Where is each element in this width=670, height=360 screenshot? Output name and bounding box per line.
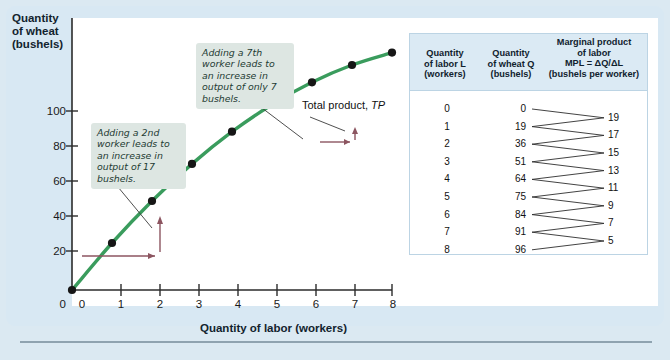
y-axis-title-line-2: of wheat [12, 25, 74, 38]
x-tick-label-2: 2 [152, 298, 168, 310]
cell-mpl-11: 11 [608, 182, 634, 193]
header-mpl-line-4: (bushels per worker) [542, 69, 646, 80]
mpl-connector [532, 171, 604, 180]
header-labor-line-3: (workers) [414, 69, 476, 80]
header-labor-line-1: Quantity [414, 48, 476, 59]
header-wheat-line-2: of wheat Q [480, 59, 542, 70]
y-axis-title: Quantity of wheat (bushels) [12, 12, 74, 51]
mpl-connector [532, 127, 604, 136]
cell-mpl-9: 9 [608, 200, 634, 211]
cell-labor-2: 2 [430, 138, 464, 149]
header-wheat-line-3: (bushels) [480, 69, 542, 80]
mpl-connector [532, 153, 604, 162]
x-tick-label-8: 8 [385, 298, 401, 310]
x-axis-title: Quantity of labor (workers) [200, 322, 347, 334]
cell-wheat-0: 0 [492, 103, 526, 114]
curve-label-text: Total product, [302, 99, 371, 111]
bottom-rule [20, 341, 652, 343]
x-tick-label-1: 1 [113, 298, 129, 310]
cell-mpl-19: 19 [608, 112, 634, 123]
cell-mpl-17: 17 [608, 129, 634, 140]
mpl-connector [532, 215, 604, 224]
x-tick-label-4: 4 [230, 298, 246, 310]
y-tick-label-80: 80 [34, 140, 66, 152]
cell-labor-4: 4 [430, 173, 464, 184]
x-tick-label-3: 3 [191, 298, 207, 310]
cell-wheat-2: 36 [492, 138, 526, 149]
cell-wheat-5: 75 [492, 191, 526, 202]
cell-wheat-4: 64 [492, 173, 526, 184]
cell-mpl-7: 7 [608, 217, 634, 228]
header-wheat-line-1: Quantity [480, 48, 542, 59]
cell-labor-3: 3 [430, 156, 464, 167]
mpl-connector [532, 241, 604, 250]
y-axis-title-line-3: (bushels) [12, 38, 74, 51]
mpl-connector [532, 223, 604, 232]
cell-wheat-8: 96 [492, 244, 526, 255]
table-body: 001192363514645756847918961917151311975 [410, 91, 647, 255]
cell-labor-7: 7 [430, 226, 464, 237]
cell-mpl-13: 13 [608, 165, 634, 176]
cell-labor-1: 1 [430, 121, 464, 132]
cell-labor-8: 8 [430, 244, 464, 255]
curve-label-total-product: Total product, TP [302, 99, 385, 111]
mpl-connector [532, 162, 604, 171]
cell-wheat-6: 84 [492, 209, 526, 220]
callout-2nd-worker: Adding a 2nd worker leads to an increase… [91, 123, 186, 189]
y-tick-label-0: 0 [34, 298, 66, 310]
curve-label-tp: TP [371, 99, 385, 111]
cell-mpl-15: 15 [608, 147, 634, 158]
header-mpl-line-2: of labor [542, 48, 646, 59]
mpl-connector [532, 188, 604, 197]
mpl-connector [532, 197, 604, 206]
mpl-connector [532, 144, 604, 153]
table-header: Quantity of labor L (workers) Quantity o… [410, 34, 647, 91]
callout-7th-worker: Adding a 7th worker leads to an increase… [196, 43, 294, 109]
mpl-connector [532, 109, 604, 118]
x-tick-label-0: 0 [74, 298, 90, 310]
y-axis-title-line-1: Quantity [12, 12, 74, 25]
cell-wheat-7: 91 [492, 226, 526, 237]
mpl-connector [532, 232, 604, 241]
textbook-figure: Quantity of wheat (bushels) Quantity of … [0, 0, 670, 360]
cell-wheat-3: 51 [492, 156, 526, 167]
cell-mpl-5: 5 [608, 235, 634, 246]
header-mpl-line-3: MPL = ΔQ/ΔL [542, 58, 646, 69]
cell-wheat-1: 19 [492, 121, 526, 132]
table-header-mpl: Marginal product of labor MPL = ΔQ/ΔL (b… [542, 37, 646, 79]
mpl-connector [532, 179, 604, 188]
mpl-connector [532, 118, 604, 127]
y-tick-label-40: 40 [34, 210, 66, 222]
marginal-product-table: Quantity of labor L (workers) Quantity o… [409, 33, 648, 255]
mpl-connector [532, 206, 604, 215]
y-tick-label-60: 60 [34, 175, 66, 187]
mpl-connector [532, 135, 604, 144]
y-tick-label-20: 20 [34, 245, 66, 257]
header-labor-line-2: of labor L [414, 59, 476, 70]
x-tick-label-7: 7 [347, 298, 363, 310]
header-mpl-line-1: Marginal product [542, 37, 646, 48]
x-tick-label-5: 5 [269, 298, 285, 310]
y-tick-label-100: 100 [34, 105, 66, 117]
table-header-labor: Quantity of labor L (workers) [414, 48, 476, 80]
table-header-wheat: Quantity of wheat Q (bushels) [480, 48, 542, 80]
cell-labor-6: 6 [430, 209, 464, 220]
x-tick-label-6: 6 [308, 298, 324, 310]
cell-labor-5: 5 [430, 191, 464, 202]
cell-labor-0: 0 [430, 103, 464, 114]
